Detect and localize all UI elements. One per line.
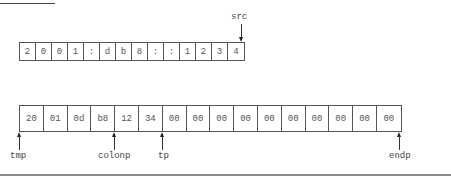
src-arrow-shaft bbox=[241, 24, 242, 38]
colonp-pointer-label: colonp bbox=[98, 151, 130, 161]
buffer-cell: 0d bbox=[68, 106, 92, 131]
buffer-cell: b8 bbox=[91, 106, 115, 131]
buffer-cell: 00 bbox=[258, 106, 282, 131]
tmp-buffer-array: 20 01 0d b8 12 34 00 00 00 00 00 00 00 0… bbox=[19, 105, 402, 132]
src-pointer-label: src bbox=[231, 12, 247, 22]
buffer-cell: 34 bbox=[139, 106, 163, 131]
src-cell: 3 bbox=[212, 43, 228, 60]
bottom-divider-line bbox=[0, 174, 451, 176]
src-cell: 2 bbox=[196, 43, 212, 60]
endp-arrow-shaft bbox=[399, 136, 400, 150]
src-cell: 2 bbox=[20, 43, 36, 60]
src-string-array: 2 0 0 1 : d b 8 : : 1 2 3 4 bbox=[19, 42, 245, 61]
arrow-down-icon bbox=[239, 37, 243, 42]
buffer-cell: 00 bbox=[377, 106, 401, 131]
buffer-cell: 20 bbox=[20, 106, 44, 131]
buffer-cell: 00 bbox=[282, 106, 306, 131]
tp-arrow-shaft bbox=[162, 136, 163, 150]
src-cell: 8 bbox=[132, 43, 148, 60]
src-cell: 0 bbox=[36, 43, 52, 60]
src-cell: 4 bbox=[228, 43, 244, 60]
buffer-cell: 00 bbox=[353, 106, 377, 131]
src-cell: : bbox=[84, 43, 100, 60]
tp-pointer-label: tp bbox=[158, 151, 169, 161]
endp-pointer-label: endp bbox=[389, 151, 411, 161]
colonp-arrow-shaft bbox=[114, 136, 115, 150]
tmp-pointer-label: tmp bbox=[10, 151, 26, 161]
buffer-cell: 00 bbox=[187, 106, 211, 131]
src-cell: 0 bbox=[52, 43, 68, 60]
src-cell: : bbox=[164, 43, 180, 60]
buffer-cell: 12 bbox=[115, 106, 139, 131]
src-cell: b bbox=[116, 43, 132, 60]
buffer-cell: 00 bbox=[306, 106, 330, 131]
buffer-cell: 00 bbox=[210, 106, 234, 131]
src-cell: 1 bbox=[180, 43, 196, 60]
src-cell: : bbox=[148, 43, 164, 60]
buffer-cell: 00 bbox=[163, 106, 187, 131]
src-cell: d bbox=[100, 43, 116, 60]
src-cell: 1 bbox=[68, 43, 84, 60]
buffer-cell: 00 bbox=[234, 106, 258, 131]
buffer-cell: 01 bbox=[44, 106, 68, 131]
buffer-cell: 00 bbox=[329, 106, 353, 131]
top-divider-line bbox=[0, 3, 55, 4]
tmp-arrow-shaft bbox=[19, 136, 20, 150]
